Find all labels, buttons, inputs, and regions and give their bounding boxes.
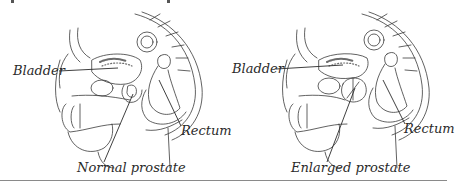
normal-leader-lines — [0, 0, 220, 180]
normal-prostate-panel: Bladder Rectum Normal prostate — [0, 0, 220, 180]
bladder-label: Bladder — [13, 64, 65, 77]
rectum-label: Rectum — [181, 124, 232, 137]
enlarged-leader-lines — [227, 0, 447, 180]
bottom-divider — [0, 180, 447, 181]
enlarged-prostate-label: Enlarged prostate — [291, 161, 410, 174]
normal-prostate-label: Normal prostate — [77, 161, 186, 174]
enlarged-prostate-panel: Bladder Rectum Enlarged prostate — [227, 0, 447, 180]
bladder-label: Bladder — [232, 62, 284, 75]
rectum-label: Rectum — [404, 122, 455, 135]
